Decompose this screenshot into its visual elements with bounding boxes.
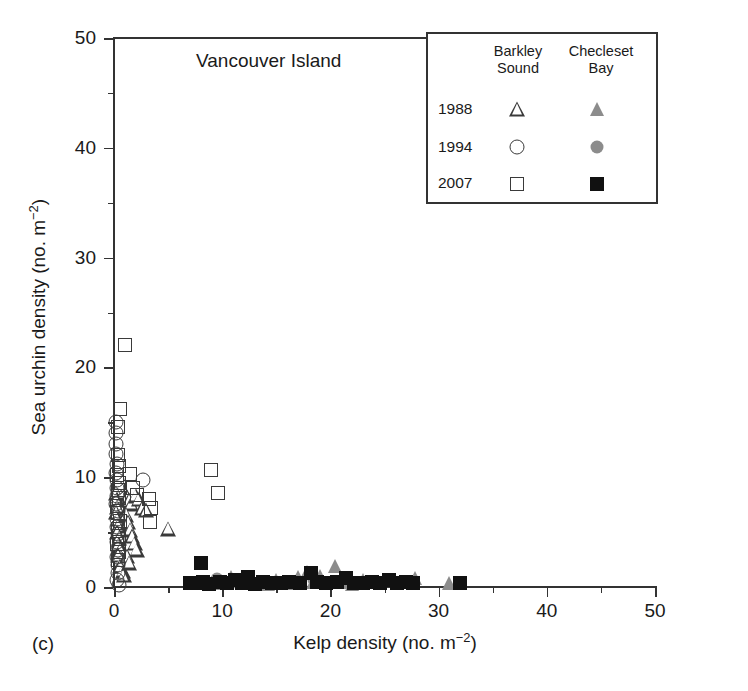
data-point xyxy=(111,577,126,592)
data-point xyxy=(118,338,132,352)
legend-marker xyxy=(590,177,604,191)
legend-box: Barkley Sound Checleset Bay 1988 1994 20… xyxy=(426,32,658,204)
x-tick-label: 50 xyxy=(644,600,665,622)
legend-marker xyxy=(591,141,604,154)
x-tick-minor xyxy=(493,588,495,593)
data-point xyxy=(111,553,125,567)
data-point xyxy=(143,515,157,529)
y-tick-major xyxy=(104,38,113,40)
x-tick-minor xyxy=(168,588,170,593)
legend-year-1988: 1988 xyxy=(438,100,486,118)
data-point xyxy=(194,556,208,570)
x-axis-label-text: Kelp density (no. m−2) xyxy=(293,632,477,653)
figure-panel: 01020304050 01020304050 Vancouver Island… xyxy=(0,0,748,691)
x-tick-major xyxy=(439,588,441,597)
legend-year-1994: 1994 xyxy=(438,138,486,156)
legend-symbol-triangle-open xyxy=(502,96,532,122)
y-tick-minor xyxy=(108,203,113,205)
legend-header-barkley-line2: Sound xyxy=(484,60,552,77)
x-axis-label: Kelp density (no. m−2) xyxy=(113,630,657,654)
legend-symbol-circle-filled-gray xyxy=(582,134,612,160)
panel-label: (c) xyxy=(32,633,54,655)
y-tick-minor xyxy=(108,93,113,95)
data-point xyxy=(406,576,420,590)
legend-marker xyxy=(509,102,525,117)
data-point xyxy=(144,501,158,515)
legend-header-barkley-line1: Barkley xyxy=(484,43,552,60)
legend-marker xyxy=(510,177,524,191)
data-point xyxy=(204,463,218,477)
data-point xyxy=(453,576,467,590)
y-axis-label: Sea urchin density (no. m−2) xyxy=(26,57,50,577)
legend-symbol-triangle-filled-gray xyxy=(582,96,612,122)
legend-marker xyxy=(510,140,525,155)
plot-title: Vancouver Island xyxy=(196,50,341,72)
x-tick-label: 40 xyxy=(536,600,557,622)
data-point xyxy=(211,486,225,500)
y-tick-label: 0 xyxy=(0,576,96,598)
x-tick-minor xyxy=(601,588,603,593)
data-point xyxy=(111,420,125,434)
y-tick-major xyxy=(104,258,113,260)
legend-header-checleset-line1: Checleset xyxy=(562,43,640,60)
data-point xyxy=(123,467,137,481)
legend-symbol-square-filled-black xyxy=(582,171,612,197)
legend-header-checleset-line2: Bay xyxy=(562,60,640,77)
y-axis-label-text: Sea urchin density (no. m−2) xyxy=(28,199,49,436)
legend-year-2007: 2007 xyxy=(438,174,486,192)
legend-marker xyxy=(590,102,604,116)
x-tick-major xyxy=(547,588,549,597)
x-tick-label: 20 xyxy=(320,600,341,622)
x-tick-label: 0 xyxy=(109,600,120,622)
legend-symbol-square-open xyxy=(502,171,532,197)
y-tick-major xyxy=(104,148,113,150)
legend-header-barkley: Barkley Sound xyxy=(484,43,552,77)
y-tick-major xyxy=(104,367,113,369)
data-point xyxy=(113,402,127,416)
legend-symbol-circle-open xyxy=(502,134,532,160)
data-point xyxy=(160,521,176,536)
x-tick-label: 30 xyxy=(428,600,449,622)
y-tick-label: 50 xyxy=(0,27,96,49)
x-tick-label: 10 xyxy=(212,600,233,622)
x-tick-major xyxy=(655,588,657,597)
y-tick-minor xyxy=(108,313,113,315)
legend-header-checleset: Checleset Bay xyxy=(562,43,640,77)
